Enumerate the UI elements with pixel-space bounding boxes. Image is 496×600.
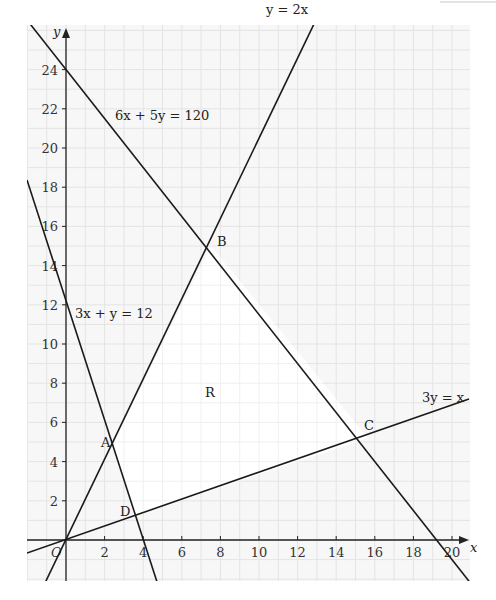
x-tick-label: 16 xyxy=(367,545,384,560)
x-tick-label: 6 xyxy=(178,545,186,560)
y-tick-label: 10 xyxy=(41,337,58,352)
y-tick-label: 24 xyxy=(41,63,58,78)
y-tick-label: 12 xyxy=(41,298,58,313)
label-3x-y-12: 3x + y = 12 xyxy=(75,306,153,321)
point-C-label: C xyxy=(364,418,374,433)
y-tick-label: 4 xyxy=(50,455,58,470)
y-axis-label: y xyxy=(52,24,61,39)
y-tick-label: 6 xyxy=(50,415,58,430)
x-tick-label: 12 xyxy=(289,545,306,560)
x-tick-label: 10 xyxy=(251,545,268,560)
x-tick-label: 8 xyxy=(216,545,224,560)
y-tick-label: 18 xyxy=(41,180,58,195)
x-tick-label: 2 xyxy=(100,545,108,560)
y-tick-label: 8 xyxy=(50,376,58,391)
label-y-2x: y = 2x xyxy=(265,2,309,17)
x-axis-label: x xyxy=(470,540,478,555)
point-D-label: D xyxy=(120,504,130,519)
linear-programming-graph: 2468101214161820 24681012141618202224 x … xyxy=(0,0,496,600)
y-tick-label: 22 xyxy=(41,102,58,117)
region-R-label: R xyxy=(205,385,216,400)
label-3y-x: 3y = x xyxy=(422,390,465,405)
point-B-label: B xyxy=(217,234,227,249)
y-tick-label: 2 xyxy=(50,494,58,509)
x-tick-label: 14 xyxy=(328,545,345,560)
x-tick-label: 18 xyxy=(405,545,422,560)
label-6x-5y-120: 6x + 5y = 120 xyxy=(115,108,209,123)
point-A-label: A xyxy=(100,435,111,450)
y-tick-label: 20 xyxy=(41,141,58,156)
